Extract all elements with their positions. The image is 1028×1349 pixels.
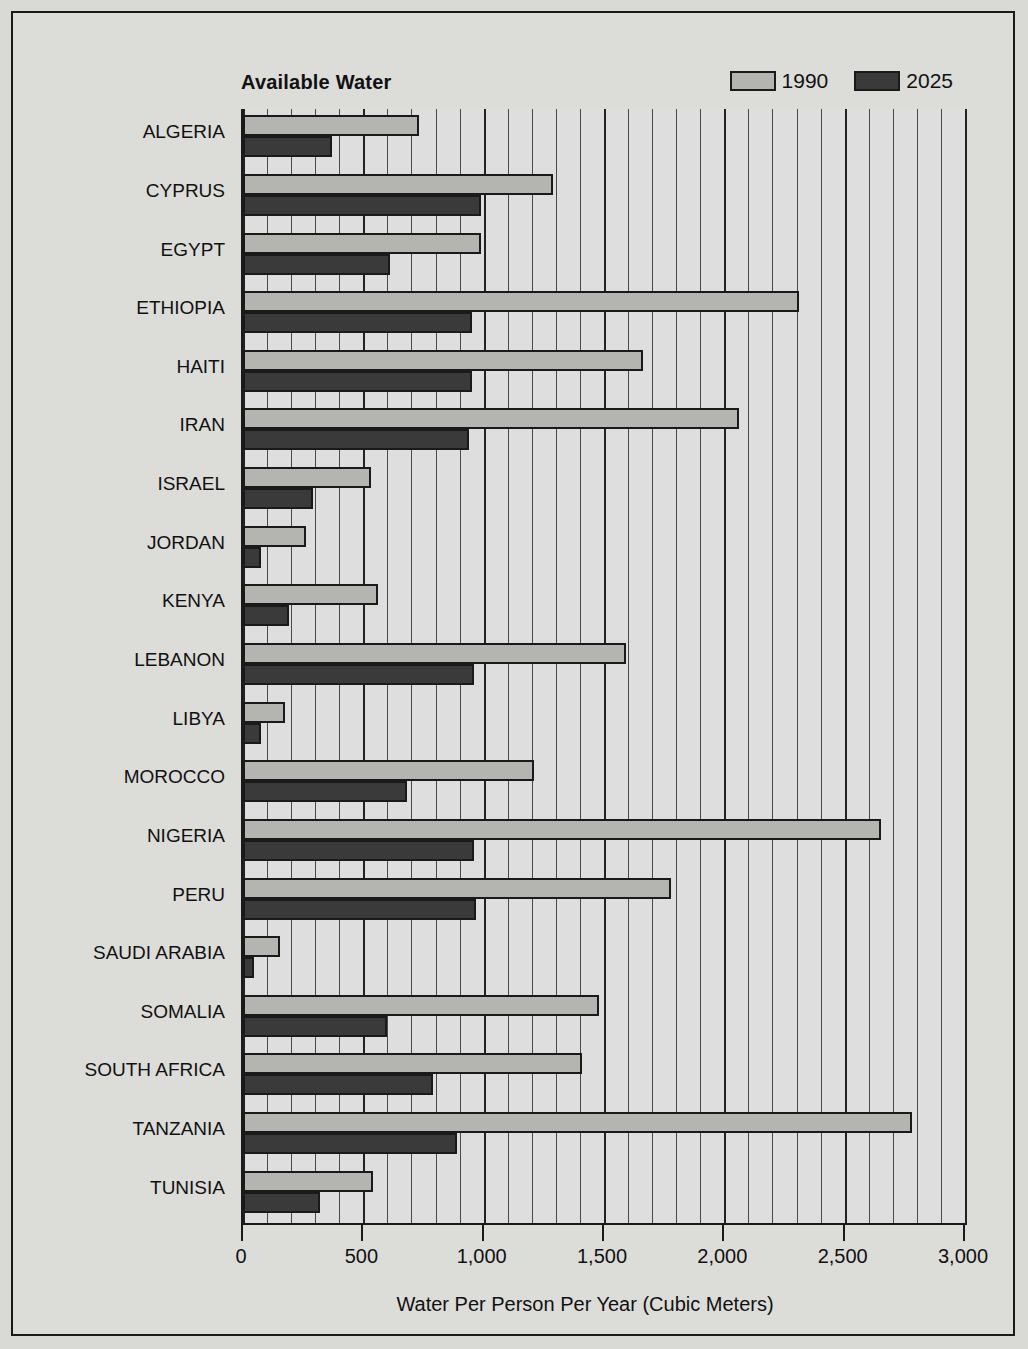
category-label-tanzania: TANZANIA: [132, 1118, 225, 1140]
bar-group: [243, 995, 965, 1037]
category-label-south-africa: SOUTH AFRICA: [85, 1059, 225, 1081]
bar-south-africa-2025: [243, 1074, 433, 1095]
bar-somalia-2025: [243, 1016, 387, 1037]
x-tick-label: 1,500: [577, 1245, 627, 1268]
bar-israel-1990: [243, 467, 371, 488]
x-axis-title: Water Per Person Per Year (Cubic Meters): [13, 1293, 1028, 1316]
category-label-kenya: KENYA: [162, 590, 225, 612]
bar-jordan-2025: [243, 547, 261, 568]
bar-group: [243, 174, 965, 216]
category-label-egypt: EGYPT: [161, 239, 225, 261]
chart-frame: Available Water 1990 2025 ALGERIACYPRUSE…: [11, 11, 1015, 1336]
category-label-haiti: HAITI: [176, 356, 225, 378]
bar-cyprus-1990: [243, 174, 553, 195]
category-label-nigeria: NIGERIA: [147, 825, 225, 847]
x-tick: [361, 1225, 363, 1241]
bar-group: [243, 467, 965, 509]
chart-title: Available Water: [241, 71, 391, 94]
bar-libya-2025: [243, 723, 261, 744]
bar-kenya-1990: [243, 584, 378, 605]
bar-somalia-1990: [243, 995, 599, 1016]
bar-jordan-1990: [243, 526, 306, 547]
bar-morocco-1990: [243, 760, 534, 781]
x-tick-label: 2,500: [818, 1245, 868, 1268]
category-label-libya: LIBYA: [173, 708, 225, 730]
gridline-major: [965, 109, 967, 1223]
bar-algeria-2025: [243, 136, 332, 157]
bar-group: [243, 643, 965, 685]
bar-egypt-1990: [243, 233, 481, 254]
x-axis-title-text: Water Per Person Per Year (Cubic Meters): [396, 1293, 773, 1315]
category-label-ethiopia: ETHIOPIA: [136, 297, 225, 319]
bar-nigeria-2025: [243, 840, 474, 861]
bar-group: [243, 115, 965, 157]
x-tick-label: 3,000: [938, 1245, 988, 1268]
bar-group: [243, 878, 965, 920]
bar-algeria-1990: [243, 115, 419, 136]
bar-lebanon-1990: [243, 643, 626, 664]
bar-group: [243, 408, 965, 450]
bar-tanzania-2025: [243, 1133, 457, 1154]
legend-label-1990: 1990: [782, 69, 829, 93]
bar-group: [243, 233, 965, 275]
bar-group: [243, 702, 965, 744]
bar-iran-1990: [243, 408, 739, 429]
chart-page: Available Water 1990 2025 ALGERIACYPRUSE…: [0, 0, 1028, 1349]
bar-tanzania-1990: [243, 1112, 912, 1133]
bar-egypt-2025: [243, 254, 390, 275]
category-label-lebanon: LEBANON: [134, 649, 225, 671]
chart-legend: 1990 2025: [730, 69, 953, 93]
bar-saudi-arabia-2025: [243, 957, 254, 978]
legend-label-2025: 2025: [906, 69, 953, 93]
x-axis-ticks: [241, 1225, 963, 1241]
bar-group: [243, 936, 965, 978]
category-label-saudi-arabia: SAUDI ARABIA: [93, 942, 225, 964]
x-tick-label: 0: [235, 1245, 246, 1268]
x-tick: [241, 1225, 243, 1241]
bar-libya-1990: [243, 702, 285, 723]
bar-morocco-2025: [243, 781, 407, 802]
category-label-cyprus: CYPRUS: [146, 180, 225, 202]
x-tick: [602, 1225, 604, 1241]
x-tick-label: 500: [345, 1245, 378, 1268]
x-tick: [843, 1225, 845, 1241]
bar-tunisia-2025: [243, 1192, 320, 1213]
bar-haiti-2025: [243, 371, 472, 392]
x-axis-tick-labels: 05001,0001,5002,0002,5003,000: [13, 1245, 1028, 1275]
bar-group: [243, 584, 965, 626]
bar-iran-2025: [243, 429, 469, 450]
x-tick: [963, 1225, 965, 1241]
bar-ethiopia-1990: [243, 291, 799, 312]
plot-area: [241, 109, 967, 1225]
bar-group: [243, 1171, 965, 1213]
bar-south-africa-1990: [243, 1053, 582, 1074]
bar-group: [243, 350, 965, 392]
x-tick-label: 2,000: [697, 1245, 747, 1268]
legend-swatch-1990-icon: [730, 71, 776, 91]
bar-tunisia-1990: [243, 1171, 373, 1192]
category-axis-labels: ALGERIACYPRUSEGYPTETHIOPIAHAITIIRANISRAE…: [13, 109, 225, 1223]
bar-group: [243, 1112, 965, 1154]
bar-nigeria-1990: [243, 819, 881, 840]
bar-group: [243, 291, 965, 333]
bar-peru-1990: [243, 878, 671, 899]
category-label-somalia: SOMALIA: [141, 1001, 225, 1023]
category-label-iran: IRAN: [180, 414, 225, 436]
legend-item-2025: 2025: [854, 69, 953, 93]
bar-peru-2025: [243, 899, 476, 920]
bar-group: [243, 526, 965, 568]
legend-swatch-2025-icon: [854, 71, 900, 91]
bar-kenya-2025: [243, 605, 289, 626]
bar-haiti-1990: [243, 350, 643, 371]
category-label-tunisia: TUNISIA: [150, 1177, 225, 1199]
category-label-israel: ISRAEL: [157, 473, 225, 495]
category-label-algeria: ALGERIA: [143, 121, 225, 143]
category-label-peru: PERU: [172, 884, 225, 906]
bar-saudi-arabia-1990: [243, 936, 280, 957]
bar-rows: [243, 109, 965, 1223]
legend-item-1990: 1990: [730, 69, 829, 93]
x-tick: [722, 1225, 724, 1241]
bar-ethiopia-2025: [243, 312, 472, 333]
x-tick: [482, 1225, 484, 1241]
bar-israel-2025: [243, 488, 313, 509]
